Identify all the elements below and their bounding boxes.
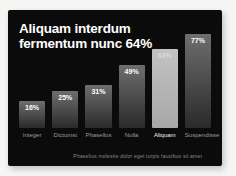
bar-category-label: Suspendisse [185,132,211,140]
bar-group-aliquam-highlighted: 64% Aliquam [152,49,178,140]
bar-category-label: Phasellus [85,132,111,140]
bar-chart: 16% Integer 25% Dictumst 31% Phasellus 4… [19,34,211,140]
bar-group-integer: 16% Integer [19,101,45,140]
bar-integer: 16% [19,101,45,128]
bar-value-label: 31% [85,88,111,95]
bar-category-label: Integer [19,132,45,140]
bar-group-suspendisse: 77% Suspendisse [185,34,211,140]
bar-value-label: 49% [119,68,145,75]
slide-footnote: Phasellus molestie dolor eget turpis fau… [73,153,202,159]
bar-value-label: 64% [152,52,178,59]
bar-value-label: 25% [52,94,78,101]
presentation-slide: Aliquam interdum fermentum nunc 64% 16% … [8,10,222,166]
bar-group-nulla: 49% Nulla [119,65,145,140]
slide-canvas: Aliquam interdum fermentum nunc 64% 16% … [0,0,236,176]
bar-aliquam-highlighted: 64% [152,49,178,128]
bar-dictumst: 25% [52,91,78,128]
bar-category-label: Dictumst [52,132,78,140]
bar-group-dictumst: 25% Dictumst [52,91,78,140]
bar-phasellus: 31% [85,85,111,128]
bar-category-label: Nulla [119,132,145,140]
bar-suspendisse: 77% [185,34,211,128]
bar-nulla: 49% [119,65,145,128]
bar-value-label: 77% [185,37,211,44]
bar-category-label: Aliquam [152,132,178,140]
bar-value-label: 16% [19,104,45,111]
bar-group-phasellus: 31% Phasellus [85,85,111,140]
